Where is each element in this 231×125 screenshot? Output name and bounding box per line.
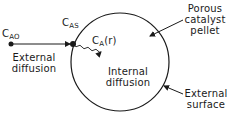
label-line: catalyst [180, 14, 230, 25]
label-subscript: AO [9, 33, 20, 41]
external-diffusion-label: External diffusion [5, 52, 63, 74]
label-subscript: A [99, 40, 104, 48]
catalyst-pellet-diagram: CAO CAS CA(r) External diffusion Interna… [0, 0, 231, 125]
bulk-concentration-label: CAO [2, 28, 20, 41]
internal-diffusion-label: Internal diffusion [98, 66, 158, 88]
label-subscript: AS [69, 22, 79, 30]
label-line: External [5, 52, 63, 63]
label-line: Porous [180, 3, 230, 14]
label-line: diffusion [5, 63, 63, 74]
label-suffix: (r) [104, 35, 117, 46]
label-line: surface [182, 99, 230, 110]
internal-concentration-label: CA(r) [92, 35, 117, 48]
surface-concentration-label: CAS [62, 17, 79, 30]
label-line: External [182, 88, 230, 99]
label-line: Internal [98, 66, 158, 77]
pellet-circle [71, 13, 169, 111]
porous-catalyst-pellet-label: Porous catalyst pellet [180, 3, 230, 36]
surface-pointer-arrow [164, 86, 183, 94]
external-surface-label: External surface [182, 88, 230, 110]
label-line: diffusion [98, 77, 158, 88]
label-line: pellet [180, 25, 230, 36]
